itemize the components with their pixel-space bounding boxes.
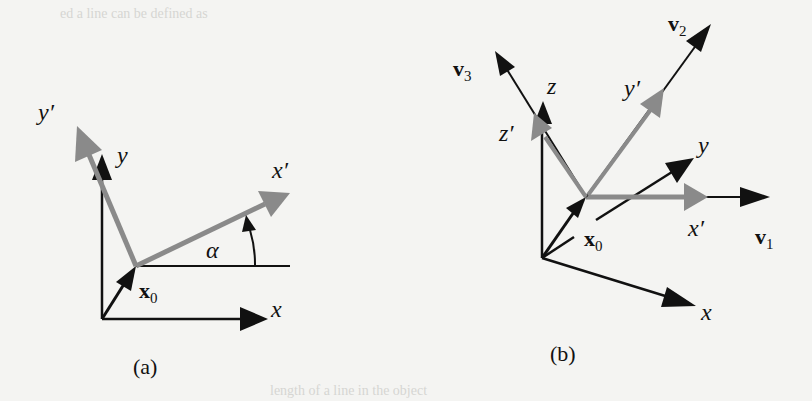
panel-a-y-axis bbox=[92, 154, 112, 319]
panel-a-x-axis bbox=[102, 307, 268, 331]
panel-b-x0-vector bbox=[542, 197, 586, 258]
panel-b-label-y: y bbox=[698, 133, 709, 157]
panel-b-label-v1: v1 bbox=[755, 226, 774, 252]
panel-b-label-x-prime: x′ bbox=[688, 216, 704, 240]
panel-a-label-y: y bbox=[117, 143, 128, 167]
panel-b-z-prime-axis bbox=[531, 113, 586, 197]
panel-b-label-x0: x0 bbox=[584, 228, 603, 254]
panel-b-label-x: x bbox=[701, 300, 712, 324]
panel-b-diagram bbox=[495, 24, 770, 307]
panel-b-y-prime-axis bbox=[588, 88, 664, 195]
panel-a-diagram bbox=[75, 126, 290, 331]
panel-b-caption: (b) bbox=[550, 343, 576, 365]
panel-b-x-axis bbox=[542, 258, 696, 307]
panel-a-caption: (a) bbox=[133, 356, 157, 378]
panel-b-label-v3: v3 bbox=[453, 58, 472, 84]
panel-b-label-v2: v2 bbox=[668, 13, 687, 39]
diagram-svg bbox=[0, 0, 812, 401]
panel-a-label-x: x bbox=[271, 297, 282, 321]
panel-b-label-y-prime: y′ bbox=[624, 76, 640, 100]
panel-a-alpha-arc bbox=[242, 215, 256, 266]
panel-a-label-y-prime: y′ bbox=[38, 100, 54, 124]
panel-b-label-z-prime: z′ bbox=[499, 121, 514, 145]
panel-b-label-z: z bbox=[547, 74, 556, 98]
panel-b-y-axis bbox=[542, 158, 694, 258]
panel-a-label-x-prime: x′ bbox=[272, 158, 288, 182]
panel-a-x0-vector bbox=[102, 266, 136, 319]
panel-a-label-alpha: α bbox=[206, 238, 219, 262]
panel-a-label-x0: x0 bbox=[139, 280, 158, 306]
figure-canvas: ed a line can be defined as length of a … bbox=[0, 0, 812, 401]
